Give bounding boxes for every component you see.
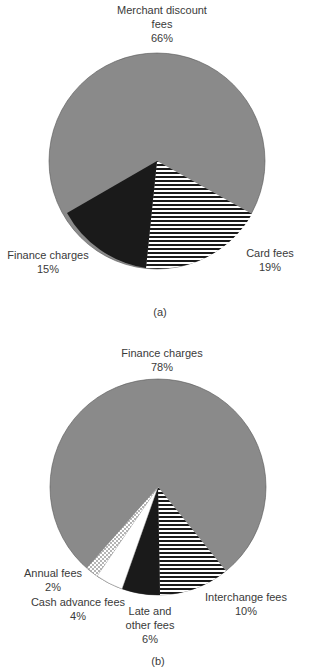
label-text: Late and [120, 604, 180, 618]
label-text: Finance charges [112, 346, 212, 360]
label-percent: 15% [4, 262, 92, 276]
label-text: Card fees [240, 246, 300, 260]
label-text: Annual fees [18, 566, 88, 580]
label-percent: 2% [18, 580, 88, 594]
label-text: Interchange fees [200, 590, 292, 604]
label-percent: 19% [240, 260, 300, 274]
label-annual-fees: Annual fees 2% [18, 566, 88, 594]
label-text: Merchant discount [110, 3, 214, 17]
caption-a: (a) [145, 305, 175, 319]
label-percent: 66% [110, 31, 214, 45]
label-merchant-discount-fees: Merchant discount fees 66% [110, 3, 214, 45]
label-percent: 4% [28, 609, 128, 623]
label-text: other fees [120, 618, 180, 632]
pie-b [50, 379, 266, 595]
label-text: Finance charges [4, 248, 92, 262]
label-percent: 6% [120, 632, 180, 646]
label-card-fees: Card fees 19% [240, 246, 300, 274]
label-text: fees [110, 17, 214, 31]
label-finance-charges-b: Finance charges 78% [112, 346, 212, 374]
label-text: Cash advance fees [28, 595, 128, 609]
label-finance-charges-a: Finance charges 15% [4, 248, 92, 276]
label-cash-advance-fees: Cash advance fees 4% [28, 595, 128, 623]
label-percent: 78% [112, 360, 212, 374]
label-percent: 10% [200, 604, 292, 618]
label-interchange-fees: Interchange fees 10% [200, 590, 292, 618]
label-late-and-other-fees: Late and other fees 6% [120, 604, 180, 646]
pie-a [49, 53, 265, 269]
caption-b: (b) [143, 654, 173, 668]
